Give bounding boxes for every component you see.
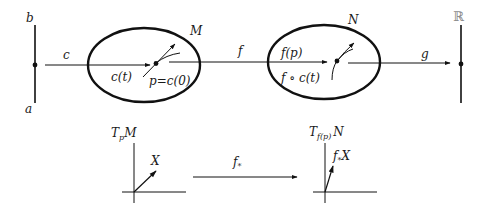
vector-x-label: X	[150, 154, 160, 168]
map-c-label: c	[63, 48, 70, 62]
point-fp	[335, 59, 340, 64]
interval-ab: b a	[25, 11, 37, 116]
pushforward-label: f*	[232, 155, 241, 171]
curve-c-label: c(t)	[111, 70, 132, 84]
point-p	[154, 61, 159, 66]
map-f-label: f	[237, 44, 245, 58]
point-fp-label: f(p)	[280, 46, 303, 60]
map-g-arrow: g	[348, 47, 450, 63]
reals-line: ℝ	[453, 9, 465, 103]
manifold-m-label: M	[189, 24, 203, 38]
map-g-label: g	[421, 47, 429, 61]
map-c-arrow: c	[45, 48, 150, 65]
diagram-canvas: b a c M c(t) p=c(0) f N f(p) f ∘ c(t) g	[0, 0, 481, 219]
manifold-n-label: N	[347, 13, 359, 27]
interval-bottom-label: a	[25, 102, 32, 116]
point-p-label: p=c(0)	[149, 74, 191, 88]
tangent-space-m-label: TpM	[111, 126, 137, 142]
vector-fx-label: f*X	[332, 149, 350, 165]
tangent-space-m: TpM X	[111, 126, 186, 203]
manifold-m: M c(t) p=c(0)	[88, 24, 203, 102]
tangent-space-n: Tf(p)N f*X	[309, 125, 377, 203]
manifold-n: N f(p) f ∘ c(t)	[268, 13, 380, 99]
interval-point	[33, 63, 38, 68]
reals-label: ℝ	[453, 9, 465, 24]
curve-fc-label: f ∘ c(t)	[280, 71, 320, 85]
vector-fx	[325, 166, 333, 192]
pushforward-arrow: f*	[193, 155, 297, 177]
interval-top-label: b	[26, 11, 34, 25]
reals-point	[459, 62, 464, 67]
tangent-space-n-label: Tf(p)N	[309, 125, 344, 141]
vector-x	[134, 171, 156, 192]
